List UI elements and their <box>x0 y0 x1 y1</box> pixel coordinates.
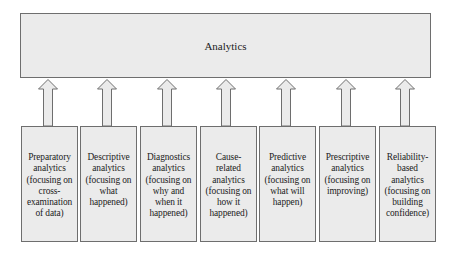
reliability-based-analytics-box: Reliability- based analytics (focusing o… <box>379 126 436 242</box>
up-arrow-icon <box>157 79 177 126</box>
preparatory-analytics-box: Preparatory analytics (focusing on cross… <box>21 126 78 242</box>
category-label: Diagnostics analytics (focusing on why a… <box>142 152 195 220</box>
up-arrow-icon <box>336 79 356 126</box>
up-arrow-icon <box>216 79 236 126</box>
up-arrow-icon <box>97 79 117 126</box>
up-arrow-icon <box>276 79 296 126</box>
descriptive-analytics-box: Descriptive analytics (focusing on what … <box>80 126 137 242</box>
category-label: Prescriptive analytics (focusing on impr… <box>321 152 374 197</box>
category-label: Predictive analytics (focusing on what w… <box>261 152 314 208</box>
category-label: Preparatory analytics (focusing on cross… <box>23 152 76 220</box>
predictive-analytics-box: Predictive analytics (focusing on what w… <box>259 126 316 242</box>
up-arrow-icon <box>38 79 58 126</box>
diagnostics-analytics-box: Diagnostics analytics (focusing on why a… <box>140 126 197 242</box>
analytics-box: Analytics <box>20 13 431 78</box>
prescriptive-analytics-box: Prescriptive analytics (focusing on impr… <box>319 126 376 242</box>
category-label: Reliability- based analytics (focusing o… <box>381 152 434 220</box>
analytics-label: Analytics <box>204 40 246 52</box>
cause-related-analytics-box: Cause- related analytics (focusing on ho… <box>200 126 257 242</box>
up-arrow-icon <box>395 79 415 126</box>
category-label: Cause- related analytics (focusing on ho… <box>202 152 255 220</box>
category-label: Descriptive analytics (focusing on what … <box>82 152 135 208</box>
